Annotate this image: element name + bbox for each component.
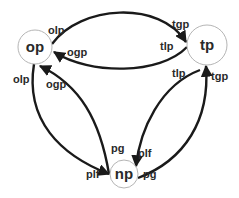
node-op[interactable]: op <box>18 30 52 64</box>
label-op-np-src: olp <box>13 73 30 85</box>
label-op-tp-src: olp <box>48 24 65 36</box>
node-tp[interactable]: tp <box>187 25 227 65</box>
label-np-tp-dst: tgp <box>211 70 228 82</box>
label-tp-op-src: tlp <box>160 40 174 52</box>
state-diagram: op tp np olp tgp tlp ogp olp plf ogp pg … <box>0 0 239 198</box>
label-tp-np-dst: plf <box>138 147 152 159</box>
label-op-np-dst: plf <box>86 168 100 180</box>
edge-op-to-np <box>33 64 109 174</box>
node-np[interactable]: np <box>110 160 138 188</box>
label-tp-np-src: tlp <box>172 67 186 79</box>
node-np-label: np <box>115 165 133 182</box>
label-tp-op-dst: ogp <box>67 46 87 58</box>
node-op-label: op <box>26 38 44 55</box>
label-op-tp-dst: tgp <box>172 18 189 30</box>
label-np-op-src: pg <box>111 142 124 154</box>
label-np-tp-src: pg <box>143 168 156 180</box>
node-tp-label: tp <box>200 36 214 53</box>
label-np-op-dst: ogp <box>46 78 66 90</box>
